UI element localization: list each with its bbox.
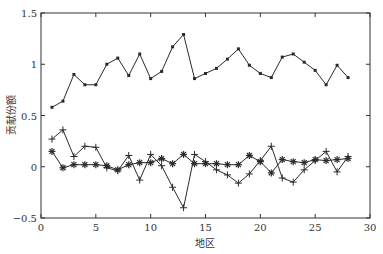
star-marker-icon — [323, 157, 330, 164]
y-tick-label: 0 — [31, 162, 37, 173]
star-marker-icon — [136, 159, 143, 166]
star-marker-icon — [70, 161, 77, 168]
dot-marker-icon — [248, 64, 251, 67]
dot-marker-icon — [193, 77, 196, 80]
dot-marker-icon — [281, 56, 284, 59]
dot-marker-icon — [237, 47, 240, 50]
plot-frame — [41, 13, 370, 218]
x-tick-label: 10 — [144, 222, 157, 233]
x-axis-label: 地区 — [195, 237, 215, 249]
star-marker-icon — [312, 156, 319, 163]
dot-marker-icon — [149, 77, 152, 80]
star-marker-icon — [125, 161, 132, 168]
dot-marker-icon — [336, 64, 339, 67]
star-marker-icon — [180, 151, 187, 158]
plus-marker-icon — [125, 152, 132, 159]
x-tick-label: 5 — [93, 222, 99, 233]
y-tick-label: 0.5 — [21, 111, 37, 122]
plus-marker-icon — [92, 144, 99, 151]
star-marker-icon — [114, 166, 121, 173]
x-tick-label: 20 — [254, 222, 267, 233]
star-marker-icon — [279, 156, 286, 163]
y-tick-label: 1.5 — [21, 8, 37, 19]
x-tick-label: 30 — [364, 222, 377, 233]
star-marker-icon — [246, 152, 253, 159]
plus-marker-icon — [136, 177, 143, 184]
dot-marker-icon — [226, 58, 229, 61]
line-chart: 051015202530−0.500.511.5 地区 贡献份额 — [0, 0, 383, 254]
plus-marker-icon — [334, 168, 341, 175]
dot-marker-icon — [50, 106, 53, 109]
dot-marker-icon — [72, 73, 75, 76]
y-axis-label: 贡献份额 — [5, 95, 17, 135]
plot-area: 051015202530−0.500.511.5 — [13, 8, 377, 233]
star-marker-icon — [147, 159, 154, 166]
y-tick-label: 1 — [31, 59, 37, 70]
dot-marker-icon — [138, 53, 141, 56]
star-marker-icon — [334, 156, 341, 163]
star-marker-icon — [158, 155, 165, 162]
dot-marker-icon — [61, 100, 64, 103]
star-marker-icon — [213, 160, 220, 167]
star-marker-icon — [81, 161, 88, 168]
dot-marker-icon — [105, 63, 108, 66]
x-tick-label: 0 — [38, 222, 44, 233]
dot-marker-icon — [127, 74, 130, 77]
data-series — [48, 33, 351, 211]
x-tick-label: 15 — [199, 222, 212, 233]
dot-marker-icon — [171, 45, 174, 48]
plus-marker-icon — [180, 204, 187, 211]
star-marker-icon — [169, 160, 176, 167]
dot-marker-icon — [182, 33, 185, 36]
dot-marker-icon — [347, 76, 350, 79]
dot-marker-icon — [292, 53, 295, 56]
plus-marker-icon — [169, 184, 176, 191]
dot-marker-icon — [259, 72, 262, 75]
series-2-line — [52, 130, 348, 208]
dot-marker-icon — [270, 76, 273, 79]
plus-marker-icon — [279, 175, 286, 182]
dot-marker-icon — [325, 83, 328, 86]
dot-marker-icon — [204, 72, 207, 75]
series-1-line — [52, 35, 348, 108]
dot-marker-icon — [303, 61, 306, 64]
star-marker-icon — [301, 159, 308, 166]
dot-marker-icon — [116, 57, 119, 60]
star-marker-icon — [92, 161, 99, 168]
star-marker-icon — [202, 160, 209, 167]
star-marker-icon — [290, 158, 297, 165]
star-marker-icon — [345, 155, 352, 162]
y-tick-label: −0.5 — [13, 213, 37, 224]
star-marker-icon — [59, 164, 66, 171]
star-marker-icon — [257, 158, 264, 165]
star-marker-icon — [103, 162, 110, 169]
dot-marker-icon — [215, 67, 218, 70]
dot-marker-icon — [83, 83, 86, 86]
star-marker-icon — [268, 169, 275, 176]
star-marker-icon — [235, 161, 242, 168]
star-marker-icon — [191, 160, 198, 167]
star-marker-icon — [48, 148, 55, 155]
dot-marker-icon — [94, 83, 97, 86]
x-tick-label: 25 — [309, 222, 322, 233]
dot-marker-icon — [314, 69, 317, 72]
dot-marker-icon — [160, 70, 163, 73]
plus-marker-icon — [191, 151, 198, 158]
star-marker-icon — [224, 161, 231, 168]
